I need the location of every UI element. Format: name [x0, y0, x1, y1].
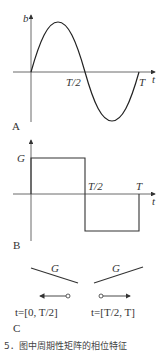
left-interval-label: t=[0, T/2]: [15, 306, 58, 318]
level-label-g: G: [17, 152, 25, 164]
figure-caption: 5．图中周期性矩阵的相位特征: [4, 339, 167, 352]
left-pivot-circle: [66, 294, 70, 298]
square-wave: [31, 158, 139, 231]
panel-c-label: C: [13, 322, 20, 334]
t-axis-label: t: [152, 195, 156, 207]
tick-period: T: [136, 180, 143, 192]
right-interval-label: t=[T/2, T]: [91, 306, 135, 318]
right-pivot-circle: [99, 294, 103, 298]
panel-c: G G t=[0, T/2] t=[T/2, T] C: [13, 262, 143, 334]
panel-a-label: A: [12, 120, 20, 132]
left-g-label: G: [51, 262, 59, 274]
tick-period: T: [139, 76, 146, 88]
sine-curve: [31, 22, 139, 121]
panel-b: G T/2 T t B: [13, 140, 156, 251]
tick-half-period: T/2: [66, 76, 81, 88]
t-axis-label: t: [152, 73, 156, 85]
panel-b-label: B: [13, 239, 20, 251]
y-axis-label-b: b: [23, 12, 29, 24]
right-g-label: G: [112, 262, 120, 274]
tick-half-period: T/2: [88, 180, 103, 192]
panel-a: b t T/2 T A: [12, 12, 156, 132]
